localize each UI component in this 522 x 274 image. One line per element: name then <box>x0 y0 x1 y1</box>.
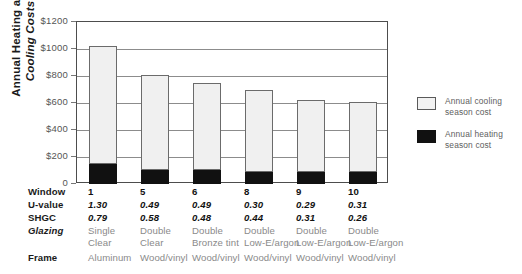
bar-stack <box>193 22 221 184</box>
table-cell: Single <box>88 225 115 236</box>
bar-segment-heating <box>245 172 273 184</box>
y-axis-title-line1: Annual Heating and <box>9 0 23 97</box>
bar-segment-heating <box>141 170 169 184</box>
table-row: Window1568910 <box>28 186 428 199</box>
table-cell: 1 <box>88 186 93 197</box>
table-cell: Clear <box>88 237 111 248</box>
legend-swatch-cooling-icon <box>417 97 436 110</box>
y-axis-tick-label: $600 <box>22 96 68 107</box>
bar-stack <box>349 22 377 184</box>
y-axis-tick-label: $200 <box>22 150 68 161</box>
table-cell: 10 <box>348 186 359 197</box>
table-cell: 0.44 <box>244 212 263 223</box>
legend-label-heating-line1: Annual heating <box>445 129 503 140</box>
table-cell: Aluminum <box>88 252 131 263</box>
bar-segment-cooling <box>193 83 221 170</box>
chart-figure: Annual Heating and Cooling Costs 0$200$4… <box>0 0 522 274</box>
table-cell: Wood/vinyl <box>296 252 344 263</box>
bar-segment-cooling <box>349 102 377 172</box>
table-row-label: U-value <box>28 199 76 210</box>
table-cell: Clear <box>140 237 163 248</box>
legend: Annual cooling season cost Annual heatin… <box>417 96 521 162</box>
bar-segment-cooling <box>245 90 273 172</box>
table-row: U-value1.300.490.490.300.290.31 <box>28 199 428 212</box>
table-row: FrameAluminumWood/vinylWood/vinylWood/vi… <box>28 252 428 265</box>
y-axis-tick-mark <box>71 183 76 184</box>
table-row: SHGC0.790.580.480.440.310.26 <box>28 212 428 225</box>
legend-swatch-heating-icon <box>417 130 436 143</box>
bar-segment-heating <box>89 164 117 184</box>
gridline <box>77 49 387 50</box>
gridline <box>77 103 387 104</box>
table-cell: 9 <box>296 186 301 197</box>
gridline <box>77 130 387 131</box>
legend-item-cooling: Annual cooling season cost <box>417 96 521 117</box>
table-cell: Wood/vinyl <box>244 252 292 263</box>
gridline <box>77 157 387 158</box>
table-cell: 0.48 <box>192 212 211 223</box>
legend-item-heating: Annual heating season cost <box>417 129 521 150</box>
table-row-label: Frame <box>28 252 76 263</box>
legend-label-cooling: Annual cooling season cost <box>445 96 502 117</box>
bar-segment-cooling <box>89 46 117 164</box>
table-cell: 0.79 <box>88 212 107 223</box>
bar-segment-heating <box>193 170 221 184</box>
legend-label-heating-line2: season cost <box>445 140 503 151</box>
bar-segment-heating <box>297 172 325 184</box>
y-axis-tick-label: $1200 <box>22 15 68 26</box>
y-axis-tick-label: $400 <box>22 123 68 134</box>
table-cell: 1.30 <box>88 199 107 210</box>
table-cell: Double <box>348 225 379 236</box>
table-cell: Double <box>140 225 171 236</box>
table-cell: Wood/vinyl <box>348 252 396 263</box>
y-axis-tick-label: $1000 <box>22 42 68 53</box>
table-cell: 0.30 <box>244 199 263 210</box>
y-axis-tick-label: $800 <box>22 69 68 80</box>
table-cell: Double <box>296 225 327 236</box>
table-cell: 0.49 <box>140 199 159 210</box>
table-cell: Low-E/argon <box>348 237 404 248</box>
table-row: ClearClearBronze tintLow-E/argonLow-E/ar… <box>28 237 428 250</box>
table-cell: Double <box>192 225 223 236</box>
table-cell: Double <box>244 225 275 236</box>
table-row-label: Glazing <box>28 225 76 236</box>
table-cell: 6 <box>192 186 197 197</box>
table-cell: 8 <box>244 186 249 197</box>
gridline <box>77 76 387 77</box>
table-cell: Wood/vinyl <box>192 252 240 263</box>
table-cell: 5 <box>140 186 145 197</box>
bar-segment-heating <box>349 172 377 184</box>
plot-area <box>76 21 388 183</box>
bar-stack <box>89 22 117 184</box>
table-cell: Low-E/argon <box>296 237 352 248</box>
legend-label-heating: Annual heating season cost <box>445 129 503 150</box>
bar-stack <box>245 22 273 184</box>
table-cell: Wood/vinyl <box>140 252 188 263</box>
table-cell: Low-E/argon <box>244 237 300 248</box>
bar-stack <box>297 22 325 184</box>
table-cell: 0.31 <box>348 199 367 210</box>
legend-label-cooling-line2: season cost <box>445 107 502 118</box>
bar-stack <box>141 22 169 184</box>
table-row-label: Window <box>28 186 76 197</box>
bar-segment-cooling <box>297 100 325 172</box>
legend-label-cooling-line1: Annual cooling <box>445 96 502 107</box>
table-cell: 0.29 <box>296 199 315 210</box>
table-cell: 0.58 <box>140 212 159 223</box>
table-cell: 0.49 <box>192 199 211 210</box>
table-cell: 0.31 <box>296 212 315 223</box>
bar-segment-cooling <box>141 75 169 170</box>
table-cell: 0.26 <box>348 212 367 223</box>
table-row-label: SHGC <box>28 212 76 223</box>
table-cell: Bronze tint <box>192 237 239 248</box>
